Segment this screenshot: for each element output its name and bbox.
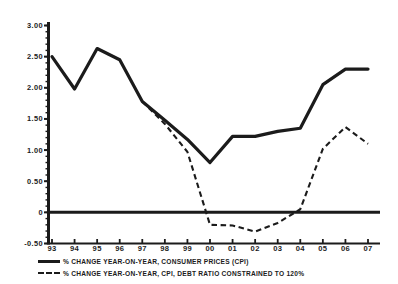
- line-chart: 3.002.502.001.501.000.500-0.50 939495969…: [0, 0, 398, 284]
- legend-label-cpi-debt-constrained: % CHANGE YEAR-ON-YEAR, CPI, DEBT RATIO C…: [60, 270, 304, 277]
- legend-swatch-dashed-icon: [38, 268, 60, 279]
- legend-label-cpi: % CHANGE YEAR-ON-YEAR, CONSUMER PRICES (…: [60, 258, 249, 265]
- plot-area: [0, 0, 398, 284]
- series-line-cpi: [52, 49, 368, 163]
- chart-legend: % CHANGE YEAR-ON-YEAR, CONSUMER PRICES (…: [38, 255, 388, 279]
- legend-item-cpi-debt-constrained: % CHANGE YEAR-ON-YEAR, CPI, DEBT RATIO C…: [38, 267, 388, 279]
- legend-swatch-solid-icon: [38, 256, 60, 267]
- legend-item-cpi: % CHANGE YEAR-ON-YEAR, CONSUMER PRICES (…: [38, 255, 388, 267]
